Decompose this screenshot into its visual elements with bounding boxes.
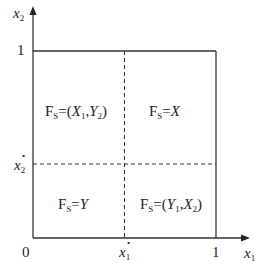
origin-label: 0 (22, 245, 30, 260)
region-bottom-right-label: FS=(Y1,X2) (140, 197, 202, 214)
x-one-tick-label: 1 (212, 245, 220, 260)
x-axis-label: x1 (244, 246, 255, 263)
region-top-right-label: FS=X (149, 104, 180, 121)
x-threshold-label: x1• (119, 245, 130, 262)
region-bottom-left-label: FS=Y (58, 197, 88, 214)
x-axis-arrow-icon (241, 235, 250, 242)
region-top-left-label: FS=(X1,Y2) (45, 104, 107, 121)
diagram-canvas (0, 0, 266, 268)
y-axis-label: x2 (13, 6, 24, 23)
y-axis-arrow-icon (30, 6, 37, 15)
y-threshold-label: x2• (14, 158, 25, 175)
y-one-tick-label: 1 (17, 43, 25, 58)
